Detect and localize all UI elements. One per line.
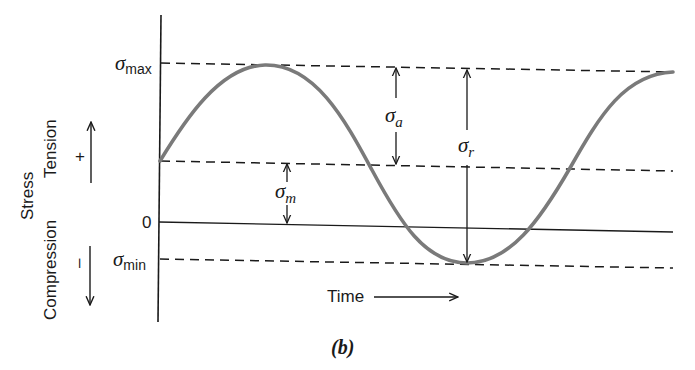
sigma-m-label: σm bbox=[275, 179, 296, 206]
stress-axis-title: Stress bbox=[18, 172, 37, 220]
stress-time-diagram: σmax 0 σmin σa σr σm Stress Tension Comp… bbox=[0, 0, 695, 370]
mean-stress-line bbox=[161, 161, 673, 171]
stress-axis bbox=[158, 15, 161, 322]
compression-label: Compression bbox=[41, 220, 60, 320]
tension-label: Tension bbox=[41, 119, 60, 178]
plus-sign: + bbox=[75, 147, 85, 166]
time-axis-title: Time bbox=[327, 287, 364, 306]
minus-sign: – bbox=[69, 258, 88, 268]
sigma-max-label: σmax bbox=[115, 51, 152, 77]
zero-label: 0 bbox=[142, 213, 151, 232]
sigma-a-label: σa bbox=[385, 103, 403, 130]
sigma-r-label: σr bbox=[458, 133, 474, 160]
figure-caption: (b) bbox=[331, 336, 354, 359]
stress-curve bbox=[160, 65, 673, 263]
zero-line bbox=[159, 222, 673, 232]
sigma-min-label: σmin bbox=[113, 247, 146, 273]
min-stress-line bbox=[160, 259, 673, 268]
